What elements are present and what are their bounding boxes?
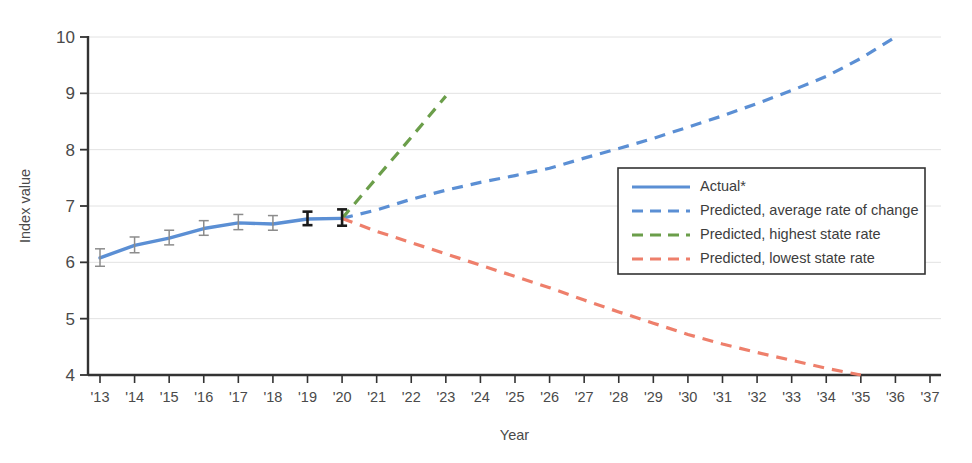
x-tick-label: '15 <box>160 389 179 405</box>
x-tick-label: '27 <box>575 389 594 405</box>
x-tick-label: '23 <box>436 389 455 405</box>
legend: Actual*Predicted, average rate of change… <box>618 168 925 274</box>
chart-container: 10987654'13'14'15'16'17'18'19'20'21'22'2… <box>0 0 972 463</box>
x-tick-label: '20 <box>333 389 352 405</box>
index-value-projection-chart: 10987654'13'14'15'16'17'18'19'20'21'22'2… <box>0 0 972 463</box>
series-line-predicted-highest-state-rate <box>342 96 446 218</box>
x-tick-label: '14 <box>125 389 144 405</box>
legend-label: Predicted, lowest state rate <box>700 250 875 266</box>
x-axis-ticks: '13'14'15'16'17'18'19'20'21'22'23'24'25'… <box>91 375 940 405</box>
y-tick-label: 6 <box>66 253 75 272</box>
x-tick-label: '16 <box>194 389 213 405</box>
x-tick-label: '22 <box>402 389 421 405</box>
legend-label: Predicted, highest state rate <box>700 226 881 242</box>
x-tick-label: '35 <box>851 389 870 405</box>
y-tick-label: 10 <box>56 28 75 47</box>
x-tick-label: '32 <box>748 389 767 405</box>
y-tick-label: 8 <box>66 141 75 160</box>
x-tick-label: '29 <box>644 389 663 405</box>
y-axis-ticks: 10987654 <box>56 28 88 385</box>
x-tick-label: '26 <box>540 389 559 405</box>
x-tick-label: '25 <box>506 389 525 405</box>
x-tick-label: '30 <box>678 389 697 405</box>
x-tick-label: '36 <box>886 389 905 405</box>
x-tick-label: '24 <box>471 389 490 405</box>
x-tick-label: '28 <box>609 389 628 405</box>
x-tick-label: '19 <box>298 389 317 405</box>
x-tick-label: '13 <box>91 389 110 405</box>
y-tick-label: 4 <box>66 366 75 385</box>
x-tick-label: '31 <box>713 389 732 405</box>
x-tick-label: '21 <box>367 389 386 405</box>
x-tick-label: '17 <box>229 389 248 405</box>
y-tick-label: 9 <box>66 84 75 103</box>
x-tick-label: '37 <box>921 389 940 405</box>
legend-label: Actual* <box>700 178 746 194</box>
y-tick-label: 5 <box>66 310 75 329</box>
x-tick-label: '34 <box>817 389 836 405</box>
x-tick-label: '18 <box>263 389 282 405</box>
x-axis-title: Year <box>500 427 529 443</box>
legend-label: Predicted, average rate of change <box>700 202 918 218</box>
y-tick-label: 7 <box>66 197 75 216</box>
x-tick-label: '33 <box>782 389 801 405</box>
y-axis-title: Index value <box>17 169 33 243</box>
